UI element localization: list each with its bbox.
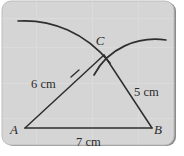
- vertex-label-c: C: [96, 33, 105, 48]
- vertex-label-a: A: [9, 122, 18, 137]
- triangle-construction-diagram: A B C 6 cm 5 cm 7 cm: [0, 0, 184, 156]
- measure-label-ab: 7 cm: [76, 135, 101, 149]
- vertex-label-b: B: [154, 122, 162, 137]
- measure-label-ac: 6 cm: [31, 77, 56, 91]
- geometry-figure-panel: A B C 6 cm 5 cm 7 cm: [0, 0, 184, 156]
- measure-label-bc: 5 cm: [134, 85, 159, 99]
